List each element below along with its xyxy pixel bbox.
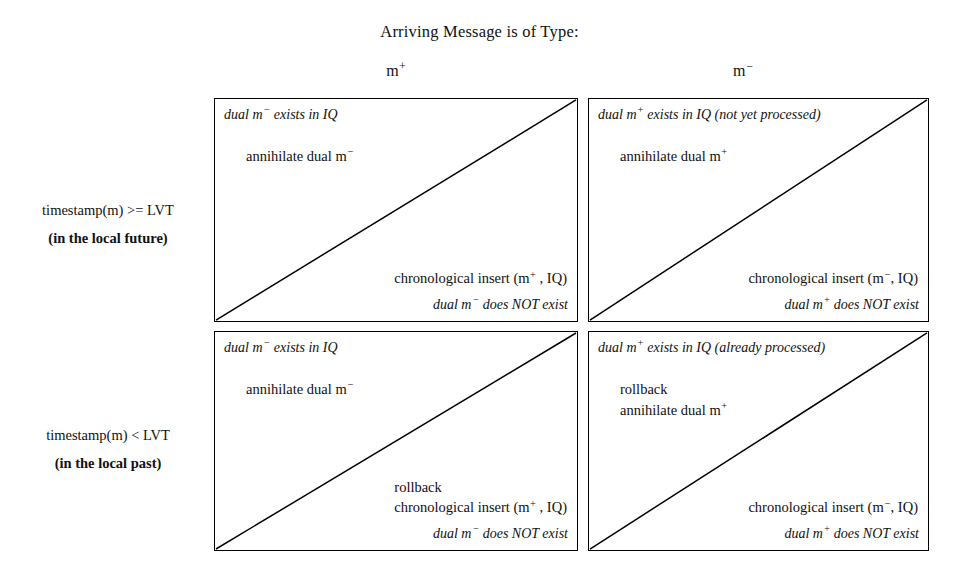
cell-action-upper-line1: rollback bbox=[620, 379, 727, 400]
cell-condition-lower: dual m− does NOT exist bbox=[433, 526, 568, 542]
matrix-cell-past-m-minus: dual m+ exists in IQ (already processed)… bbox=[588, 331, 929, 551]
row-label-local-future: timestamp(m) >= LVT (in the local future… bbox=[8, 203, 208, 245]
column-header-m-minus-base: m bbox=[733, 62, 745, 79]
cell-condition-lower: dual m+ does NOT exist bbox=[784, 526, 919, 542]
cell-action-lower: chronological insert (m−, IQ) bbox=[748, 268, 918, 289]
matrix-cell-past-m-plus: dual m− exists in IQ annihilate dual m− … bbox=[214, 331, 578, 551]
cell-action-lower-line2: chronological insert (m+ , IQ) bbox=[394, 268, 567, 289]
cell-action-lower: chronological insert (m+ , IQ) bbox=[394, 268, 567, 289]
cell-action-lower: rollback chronological insert (m+ , IQ) bbox=[394, 477, 567, 518]
row-label-future-note: (in the local future) bbox=[8, 231, 208, 246]
cell-action-lower-line2: chronological insert (m−, IQ) bbox=[748, 497, 918, 518]
cell-condition-lower: dual m+ does NOT exist bbox=[784, 297, 919, 313]
cell-action-upper: annihilate dual m+ bbox=[620, 146, 727, 167]
column-header-m-plus-base: m bbox=[386, 62, 398, 79]
cell-action-upper: annihilate dual m− bbox=[246, 146, 354, 167]
matrix-cell-future-m-plus: dual m− exists in IQ annihilate dual m− … bbox=[214, 98, 578, 322]
row-label-past-note: (in the local past) bbox=[8, 456, 208, 471]
column-header-m-minus: m− bbox=[713, 62, 773, 80]
cell-action-upper-line2: annihilate dual m+ bbox=[620, 400, 727, 421]
matrix-cell-future-m-minus: dual m+ exists in IQ (not yet processed)… bbox=[588, 98, 929, 322]
cell-action-upper-line: annihilate dual m− bbox=[246, 379, 354, 400]
cell-action-upper: annihilate dual m− bbox=[246, 379, 354, 400]
cell-action-upper-line: annihilate dual m+ bbox=[620, 146, 727, 167]
cell-action-lower-line2: chronological insert (m−, IQ) bbox=[748, 268, 918, 289]
cell-condition-upper: dual m− exists in IQ bbox=[224, 107, 338, 123]
row-label-local-past: timestamp(m) < LVT (in the local past) bbox=[8, 428, 208, 470]
cell-action-lower-line2: chronological insert (m+ , IQ) bbox=[394, 497, 567, 518]
cell-action-upper: rollback annihilate dual m+ bbox=[620, 379, 727, 420]
column-header-m-minus-sign: − bbox=[745, 60, 753, 72]
row-label-future-condition: timestamp(m) >= LVT bbox=[8, 203, 208, 218]
page-title: Arriving Message is of Type: bbox=[0, 22, 959, 42]
cell-action-lower-line1: rollback bbox=[394, 477, 567, 498]
column-header-m-plus-sign: + bbox=[399, 60, 406, 72]
row-label-past-condition: timestamp(m) < LVT bbox=[8, 428, 208, 443]
column-header-m-plus: m+ bbox=[366, 62, 426, 80]
cell-condition-upper: dual m+ exists in IQ (already processed) bbox=[598, 340, 825, 356]
cell-condition-upper: dual m+ exists in IQ (not yet processed) bbox=[598, 107, 821, 123]
cell-action-upper-line: annihilate dual m− bbox=[246, 146, 354, 167]
cell-condition-upper: dual m− exists in IQ bbox=[224, 340, 338, 356]
cell-action-lower: chronological insert (m−, IQ) bbox=[748, 497, 918, 518]
cell-condition-lower: dual m− does NOT exist bbox=[433, 297, 568, 313]
